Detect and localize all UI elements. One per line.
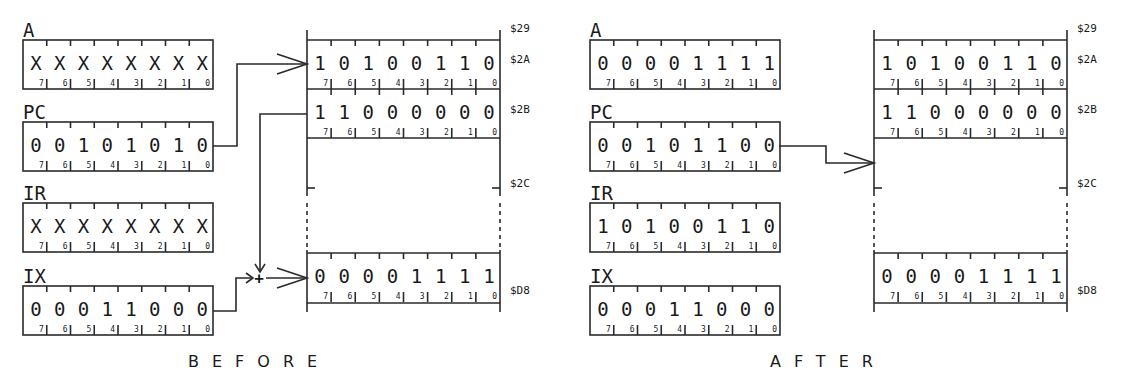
register-label: A xyxy=(590,19,602,41)
bit-index: 7 xyxy=(323,292,328,301)
bit-index: 3 xyxy=(134,242,139,251)
bit-index: 1 xyxy=(748,325,753,334)
bit-value: 0 xyxy=(597,134,608,156)
bit-index: 0 xyxy=(772,79,777,88)
memory-cell-d8: 0706050413121110 xyxy=(314,253,497,302)
bit-index: 7 xyxy=(39,79,44,88)
bit-index: 2 xyxy=(158,161,163,170)
bit-index: 3 xyxy=(701,161,706,170)
register-a: A0706050413121110 xyxy=(590,19,780,89)
bit-value: 0 xyxy=(338,52,349,74)
bit-value: 0 xyxy=(954,52,965,74)
bit-value: 0 xyxy=(149,298,160,320)
bit-value: X xyxy=(101,52,113,74)
bit-index: 3 xyxy=(420,79,425,88)
register-bits: 0706150413021100 xyxy=(23,122,213,171)
register-bits: 1706150403121100 xyxy=(590,203,780,252)
bit-index: 0 xyxy=(205,325,210,334)
bit-value: X xyxy=(101,215,113,237)
bit-index: 6 xyxy=(630,242,635,251)
bit-index: 1 xyxy=(1035,292,1040,301)
bit-value: 1 xyxy=(905,101,916,123)
bit-index: 6 xyxy=(347,128,352,137)
bit-index: 4 xyxy=(110,79,115,88)
bit-value: 1 xyxy=(763,52,774,74)
bit-value: 1 xyxy=(338,101,349,123)
bit-index: 2 xyxy=(725,325,730,334)
bit-value: 0 xyxy=(621,298,632,320)
bit-value: 1 xyxy=(483,265,494,287)
address-label: $29 xyxy=(1077,22,1097,35)
bit-index: 1 xyxy=(1035,128,1040,137)
panel-caption: AFTER xyxy=(770,352,886,371)
memory-bits: 1706150403121100 xyxy=(314,40,497,89)
memory-bits: 1706150403121100 xyxy=(881,40,1064,89)
bit-value: 0 xyxy=(668,215,679,237)
bit-value: 1 xyxy=(78,134,89,156)
bit-index: 0 xyxy=(1059,79,1064,88)
bit-value: 0 xyxy=(763,215,774,237)
bit-value: 1 xyxy=(435,52,446,74)
pointer-arrows: + xyxy=(213,54,307,311)
bit-value: 1 xyxy=(740,215,751,237)
register-bits: 0706051413020100 xyxy=(590,286,780,335)
memory-cell-d8: 0706050413121110 xyxy=(881,253,1064,302)
bit-index: 6 xyxy=(63,325,68,334)
bit-index: 2 xyxy=(158,79,163,88)
bit-value: 1 xyxy=(597,215,608,237)
bit-value: 1 xyxy=(1002,265,1013,287)
bit-value: 1 xyxy=(411,265,422,287)
bit-index: 2 xyxy=(444,79,449,88)
bit-index: 3 xyxy=(701,79,706,88)
bit-index: 2 xyxy=(725,242,730,251)
bit-index: 4 xyxy=(396,79,401,88)
register-label: IR xyxy=(590,182,613,204)
bit-index: 4 xyxy=(110,325,115,334)
memory-bits: 0706050413121110 xyxy=(881,253,1064,302)
bit-index: 4 xyxy=(110,161,115,170)
bit-index: 4 xyxy=(963,128,968,137)
bit-index: 2 xyxy=(1011,128,1016,137)
bit-value: 1 xyxy=(363,52,374,74)
instruction-execution-diagram: AX7X6X5X4X3X2X1X0PC0706150413021100IRX7X… xyxy=(0,0,1125,388)
address-label: $2A xyxy=(1077,53,1097,66)
bit-value: 0 xyxy=(387,265,398,287)
bit-index: 3 xyxy=(701,325,706,334)
bit-value: 0 xyxy=(101,134,112,156)
bit-index: 1 xyxy=(181,79,186,88)
bit-value: X xyxy=(54,52,66,74)
bit-value: 0 xyxy=(905,52,916,74)
bit-index: 4 xyxy=(677,161,682,170)
bit-index: 2 xyxy=(725,161,730,170)
bit-index: 7 xyxy=(606,325,611,334)
bit-value: 0 xyxy=(314,265,325,287)
bit-value: 0 xyxy=(716,298,727,320)
bit-value: 0 xyxy=(954,101,965,123)
bit-value: X xyxy=(196,52,208,74)
bit-value: 0 xyxy=(1002,101,1013,123)
address-label: $2B xyxy=(510,103,530,116)
bit-index: 7 xyxy=(39,161,44,170)
bit-index: 4 xyxy=(963,79,968,88)
bit-value: 0 xyxy=(1050,52,1061,74)
bit-value: 1 xyxy=(173,134,184,156)
bit-value: 0 xyxy=(668,52,679,74)
address-label: $2C xyxy=(510,177,530,190)
adder-plus-icon: + xyxy=(254,269,264,288)
bit-value: 1 xyxy=(314,101,325,123)
bit-index: 2 xyxy=(725,79,730,88)
bit-value: 0 xyxy=(978,101,989,123)
bit-index: 6 xyxy=(914,292,919,301)
bit-value: 0 xyxy=(930,101,941,123)
bit-value: X xyxy=(125,215,137,237)
bit-index: 0 xyxy=(772,161,777,170)
bit-value: 0 xyxy=(740,298,751,320)
bit-value: 0 xyxy=(881,265,892,287)
bit-index: 1 xyxy=(181,325,186,334)
bit-value: 0 xyxy=(668,134,679,156)
bit-index: 3 xyxy=(134,161,139,170)
bit-value: 1 xyxy=(1026,265,1037,287)
bit-index: 5 xyxy=(372,128,377,137)
bit-index: 4 xyxy=(677,242,682,251)
bit-index: 5 xyxy=(86,161,91,170)
